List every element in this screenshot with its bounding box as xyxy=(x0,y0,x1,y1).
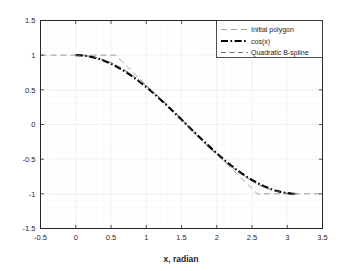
x-tick-label: 3.5 xyxy=(317,233,327,242)
x-tick-label: 3 xyxy=(285,233,289,242)
y-tick-label: -0.5 xyxy=(23,155,36,164)
x-tick-label: 2 xyxy=(215,233,219,242)
x-tick-label: 1 xyxy=(144,233,148,242)
legend-label: cos(x) xyxy=(251,38,270,46)
figure-container: -0.500.511.522.533.5 1.510.50-0.5-1-1.5 … xyxy=(0,0,342,271)
x-tick-label: 0 xyxy=(74,233,78,242)
x-axis-label: x, radian xyxy=(164,254,199,264)
y-tick-label: 1.5 xyxy=(25,16,35,25)
x-tick-label: -0.5 xyxy=(34,233,47,242)
legend-label: Initial polygon xyxy=(251,26,294,34)
legend: Initial polygoncos(x)Quadratic B-spline xyxy=(217,21,323,58)
legend-label: Quadratic B-spline xyxy=(251,49,309,57)
x-tick-label: 1.5 xyxy=(176,233,186,242)
y-tick-label: 0.5 xyxy=(25,86,35,95)
y-tick-label: -1.5 xyxy=(23,224,36,233)
x-tick-label: 0.5 xyxy=(106,233,116,242)
x-tick-label: 2.5 xyxy=(247,233,257,242)
y-tick-label: -1 xyxy=(29,190,36,199)
y-tick-label: 0 xyxy=(31,120,35,129)
chart-canvas: -0.500.511.522.533.5 1.510.50-0.5-1-1.5 … xyxy=(0,0,342,271)
y-tick-label: 1 xyxy=(31,51,35,60)
